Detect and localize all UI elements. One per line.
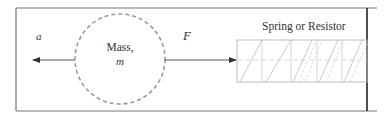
spring-resistor-icon bbox=[237, 40, 367, 82]
mass-spring-diagram: a F Mass, m Spring or Resistor bbox=[0, 0, 386, 118]
diagram-canvas bbox=[0, 0, 386, 118]
acceleration-label: a bbox=[36, 30, 42, 42]
force-label: F bbox=[183, 28, 191, 44]
mass-label: Mass, m bbox=[100, 40, 140, 68]
spring-label: Spring or Resistor bbox=[262, 20, 346, 32]
mass-label-line1: Mass, bbox=[106, 41, 133, 53]
mass-symbol: m bbox=[100, 54, 140, 68]
